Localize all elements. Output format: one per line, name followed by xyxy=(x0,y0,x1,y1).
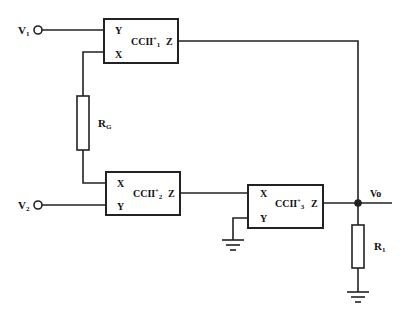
ground-icon xyxy=(222,240,244,250)
ground-icon xyxy=(347,292,369,302)
ccii1-block: Y X CCII+1 Z xyxy=(104,19,178,63)
v1-terminal: V1 xyxy=(18,24,104,38)
v2-terminal-circle xyxy=(34,201,42,209)
ccii3-block: X Y CCII+3 Z xyxy=(248,185,323,228)
ccii1-port-y: Y xyxy=(115,25,123,36)
rg-label: RG xyxy=(98,117,112,131)
v2-label: V2 xyxy=(18,199,30,213)
v2-terminal: V2 xyxy=(18,199,106,213)
ccii3-label: CCII+3 xyxy=(275,198,305,211)
resistor-rg: RG xyxy=(77,96,112,150)
ccii2-port-y: Y xyxy=(117,201,125,212)
wire-ccii1-x-to-rg xyxy=(83,52,104,96)
ccii2-port-z: Z xyxy=(168,188,175,199)
ccii3-port-x: X xyxy=(260,188,268,199)
ccii1-port-x: X xyxy=(115,49,123,60)
ccii1-port-z: Z xyxy=(166,36,173,47)
v1-label: V1 xyxy=(18,24,30,38)
ccii1-label: CCII+1 xyxy=(131,36,161,49)
vo-label: Vo xyxy=(370,188,381,199)
ccii2-label: CCII+2 xyxy=(133,188,163,201)
ccii3-port-y: Y xyxy=(260,213,268,224)
circuit-diagram: V1 Y X CCII+1 Z RG V2 X Y CCII+2 Z X Y xyxy=(0,0,410,318)
wire-ccii3-y-to-ground xyxy=(233,218,248,240)
resistor-r1: R1 xyxy=(352,225,386,268)
wire-ccii1-z-to-output xyxy=(178,41,358,203)
ccii2-block: X Y CCII+2 Z xyxy=(106,172,180,215)
v1-terminal-circle xyxy=(34,26,42,34)
r1-label: R1 xyxy=(374,240,386,254)
ccii3-port-z: Z xyxy=(311,198,318,209)
ccii2-port-x: X xyxy=(117,178,125,189)
wire-rg-to-ccii2-x xyxy=(83,150,106,183)
